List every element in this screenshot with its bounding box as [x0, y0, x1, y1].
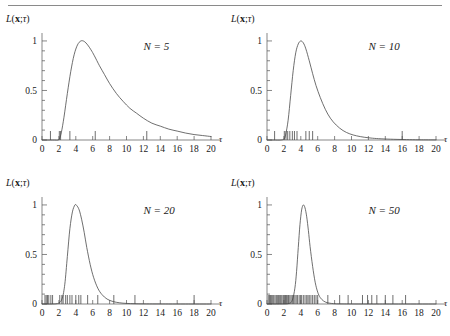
y-tick-label: 0: [32, 299, 37, 309]
x-tick-label: 20: [431, 144, 441, 154]
likelihood-chart: L(x;τ)02468101214161820τ00.51N = 50: [225, 172, 450, 336]
y-tick-label: 1: [257, 36, 262, 46]
x-axis-label: τ: [219, 298, 223, 308]
x-tick-label: 2: [282, 144, 287, 154]
x-tick-label: 0: [265, 144, 270, 154]
x-tick-label: 6: [315, 308, 320, 318]
chart-panel: L(x;τ)02468101214161820τ00.51N = 5: [0, 8, 225, 172]
x-tick-label: 6: [90, 144, 95, 154]
y-tick-label: 0.5: [25, 250, 37, 260]
x-tick-label: 14: [381, 308, 391, 318]
x-tick-label: 10: [122, 144, 132, 154]
x-tick-label: 6: [315, 144, 320, 154]
x-tick-label: 4: [73, 308, 78, 318]
y-tick-label: 0: [32, 135, 37, 145]
x-tick-label: 18: [189, 144, 199, 154]
x-axis-label: τ: [444, 298, 448, 308]
likelihood-chart: L(x;τ)02468101214161820τ00.51N = 5: [0, 8, 225, 172]
x-tick-label: 8: [332, 308, 337, 318]
x-tick-label: 0: [265, 308, 270, 318]
x-tick-label: 12: [139, 308, 149, 318]
figure-panel-grid: L(x;τ)02468101214161820τ00.51N = 5 L(x;τ…: [0, 8, 450, 336]
x-tick-label: 20: [206, 144, 216, 154]
likelihood-curve: [42, 204, 211, 304]
y-axis-label: L(x;τ): [5, 177, 30, 189]
sample-size-annotation: N = 10: [367, 40, 400, 52]
x-tick-label: 12: [364, 144, 374, 154]
x-tick-label: 2: [282, 308, 287, 318]
x-tick-label: 12: [139, 144, 149, 154]
x-axis-label: τ: [219, 134, 223, 144]
x-tick-label: 12: [364, 308, 374, 318]
y-tick-label: 0: [257, 135, 262, 145]
y-tick-label: 1: [257, 200, 262, 210]
likelihood-curve: [267, 205, 436, 304]
x-tick-label: 18: [414, 308, 424, 318]
x-tick-label: 18: [414, 144, 424, 154]
x-axis-label: τ: [444, 134, 448, 144]
y-axis-label: L(x;τ): [230, 13, 255, 25]
x-tick-label: 10: [122, 308, 132, 318]
y-tick-label: 0.5: [25, 86, 37, 96]
x-tick-label: 0: [40, 308, 45, 318]
likelihood-curve: [42, 41, 211, 140]
x-tick-label: 16: [397, 144, 407, 154]
y-tick-label: 0.5: [250, 86, 262, 96]
x-tick-label: 10: [347, 144, 357, 154]
x-tick-label: 2: [57, 144, 62, 154]
x-tick-label: 14: [156, 308, 166, 318]
x-tick-label: 8: [332, 144, 337, 154]
y-tick-label: 0.5: [250, 250, 262, 260]
x-tick-label: 16: [397, 308, 407, 318]
x-tick-label: 6: [90, 308, 95, 318]
y-axis-label: L(x;τ): [5, 13, 30, 25]
y-tick-label: 1: [32, 200, 37, 210]
x-tick-label: 2: [57, 308, 62, 318]
x-tick-label: 4: [298, 308, 303, 318]
x-tick-label: 14: [381, 144, 391, 154]
x-tick-label: 4: [73, 144, 78, 154]
x-tick-label: 16: [172, 144, 182, 154]
chart-panel: L(x;τ)02468101214161820τ00.51N = 50: [225, 172, 450, 336]
chart-panel: L(x;τ)02468101214161820τ00.51N = 10: [225, 8, 450, 172]
chart-panel: L(x;τ)02468101214161820τ00.51N = 20: [0, 172, 225, 336]
likelihood-chart: L(x;τ)02468101214161820τ00.51N = 20: [0, 172, 225, 336]
y-tick-label: 0: [257, 299, 262, 309]
x-tick-label: 8: [107, 308, 112, 318]
x-tick-label: 18: [189, 308, 199, 318]
x-tick-label: 0: [40, 144, 45, 154]
sample-size-annotation: N = 5: [142, 40, 169, 52]
y-axis-label: L(x;τ): [230, 177, 255, 189]
sample-size-annotation: N = 20: [142, 204, 175, 216]
x-tick-label: 10: [347, 308, 357, 318]
likelihood-curve: [267, 41, 436, 140]
header-rule: [8, 5, 442, 6]
x-tick-label: 8: [107, 144, 112, 154]
likelihood-chart: L(x;τ)02468101214161820τ00.51N = 10: [225, 8, 450, 172]
y-tick-label: 1: [32, 36, 37, 46]
x-tick-label: 4: [298, 144, 303, 154]
x-tick-label: 16: [172, 308, 182, 318]
x-tick-label: 20: [431, 308, 441, 318]
x-tick-label: 20: [206, 308, 216, 318]
x-tick-label: 14: [156, 144, 166, 154]
sample-size-annotation: N = 50: [367, 204, 400, 216]
